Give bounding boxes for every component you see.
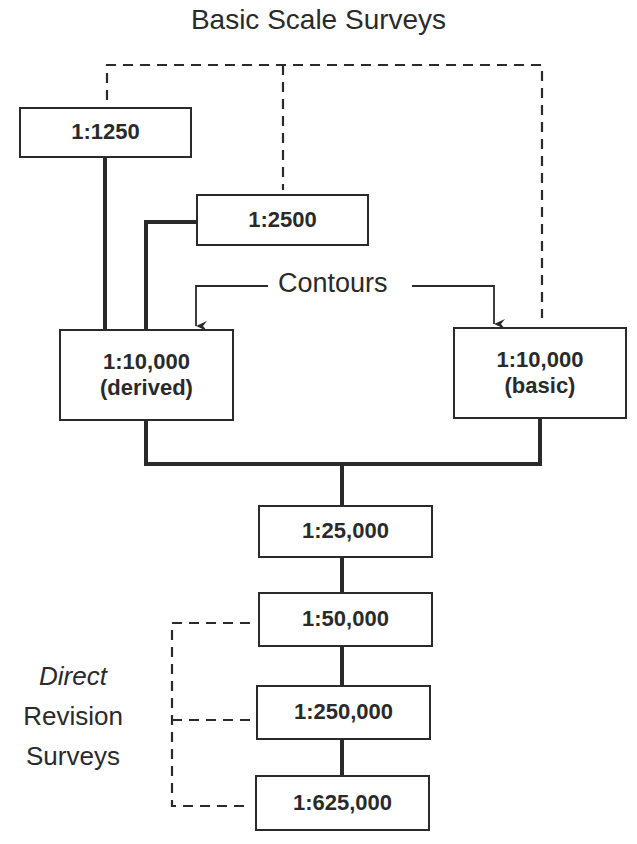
scale-note: (basic) [505, 373, 576, 399]
box-1-250000: 1:250,000 [256, 685, 431, 740]
scale-note: (derived) [100, 375, 193, 401]
direct-revision-surveys-label: Direct Revision Surveys [8, 656, 138, 776]
box-1-2500: 1:2500 [196, 194, 369, 246]
scale-label: 1:2500 [248, 207, 317, 233]
scale-label: 1:1250 [71, 119, 140, 145]
side-label-line1: Direct [8, 656, 138, 696]
scale-label: 1:250,000 [294, 699, 393, 725]
scale-label: 1:10,000 [497, 347, 584, 373]
box-1-50000: 1:50,000 [258, 592, 433, 647]
scale-label: 1:50,000 [302, 606, 389, 632]
box-1-25000: 1:25,000 [258, 505, 433, 558]
box-1-10000-derived: 1:10,000 (derived) [59, 329, 234, 421]
contours-label: Contours [278, 268, 388, 299]
scale-label: 1:625,000 [293, 790, 392, 816]
box-1-625000: 1:625,000 [255, 775, 430, 831]
scale-label: 1:10,000 [103, 349, 190, 375]
scale-label: 1:25,000 [302, 518, 389, 544]
side-label-line3: Surveys [8, 736, 138, 776]
side-label-line2: Revision [8, 696, 138, 736]
box-1-1250: 1:1250 [19, 107, 192, 158]
box-1-10000-basic: 1:10,000 (basic) [453, 327, 627, 419]
